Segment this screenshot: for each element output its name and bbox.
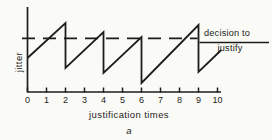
x-tick-label-3: 3 (82, 95, 87, 105)
decision-threshold-label-line2: justify (199, 44, 261, 53)
y-axis-label: jitter (14, 41, 26, 83)
x-axis-label: justification times (59, 110, 199, 120)
x-tick-label-10: 10 (212, 95, 222, 105)
x-tick-label-8: 8 (177, 95, 182, 105)
x-tick-label-4: 4 (101, 95, 106, 105)
decision-threshold-label-line1: decision to (204, 29, 250, 38)
x-tick-label-1: 1 (44, 95, 49, 105)
x-tick-label-0: 0 (25, 95, 30, 105)
figure-caption: a (109, 126, 149, 136)
x-tick-label-7: 7 (158, 95, 163, 105)
jitter-sawtooth-waveform (28, 23, 222, 83)
x-tick-label-2: 2 (63, 95, 68, 105)
x-tick-label-6: 6 (139, 95, 144, 105)
x-tick-label-5: 5 (120, 95, 125, 105)
jitter-figure: jitter justification times a decision to… (0, 0, 272, 140)
x-tick-label-9: 9 (196, 95, 201, 105)
